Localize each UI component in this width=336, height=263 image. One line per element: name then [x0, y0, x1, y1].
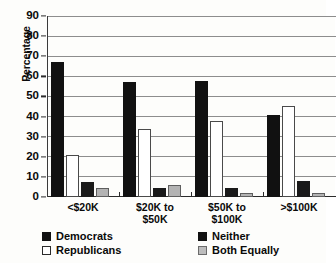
y-tick-label-70: 70 [26, 50, 39, 62]
bar-republicans [138, 129, 151, 197]
bar-both-equally [168, 185, 181, 197]
x-tick-label: >$100K [263, 202, 335, 214]
y-tick-mark-0 [41, 196, 46, 197]
bar-democrats [51, 62, 64, 197]
bar-both-equally [96, 188, 109, 197]
y-tick-label-80: 80 [26, 30, 39, 42]
y-tick-mark-60 [41, 76, 46, 77]
y-tick-label-50: 50 [26, 91, 39, 103]
bar-group [120, 16, 192, 197]
bars-layer [48, 16, 336, 197]
bar-democrats [195, 81, 208, 197]
y-tick-mark-30 [41, 136, 46, 137]
bar-neither [225, 188, 238, 197]
x-axis-labels: <$20K$20K to $50K$50K to $100K>$100K [47, 200, 335, 226]
y-tick-mark-20 [41, 156, 46, 157]
y-tick-label-60: 60 [26, 71, 39, 83]
legend-item-democrats: Democrats [42, 230, 113, 242]
x-tick-label: $50K to $100K [191, 202, 263, 225]
chart-legend: Democrats Republicans Neither Both Equal… [42, 230, 326, 258]
bar-neither [81, 182, 94, 197]
x-axis-separator [263, 192, 264, 197]
legend-label-democrats: Democrats [56, 230, 113, 242]
bar-neither [153, 188, 166, 197]
plot-area [47, 16, 335, 197]
y-tick-mark-70 [41, 56, 46, 57]
bar-group [48, 16, 120, 197]
legend-swatch-democrats-icon [42, 232, 51, 241]
x-tick-label: $20K to $50K [119, 202, 191, 225]
bar-both-equally [240, 193, 253, 197]
y-tick-label-90: 90 [26, 10, 39, 22]
y-axis-ticks: 0102030405060708090 [0, 16, 43, 197]
bar-republicans [282, 106, 295, 198]
legend-item-neither: Neither [198, 230, 250, 242]
legend-label-both-equally: Both Equally [212, 244, 279, 256]
legend-swatch-neither-icon [198, 232, 207, 241]
legend-label-neither: Neither [212, 230, 250, 242]
y-tick-mark-10 [41, 176, 46, 177]
x-axis-separator [119, 192, 120, 197]
legend-item-republicans: Republicans [42, 244, 121, 256]
bar-republicans [66, 155, 79, 197]
y-tick-mark-90 [41, 15, 46, 16]
y-tick-label-40: 40 [26, 111, 39, 123]
bar-both-equally [312, 193, 325, 197]
y-tick-mark-50 [41, 96, 46, 97]
y-tick-label-20: 20 [26, 151, 39, 163]
bar-group [192, 16, 264, 197]
bar-democrats [267, 115, 280, 197]
legend-label-republicans: Republicans [56, 244, 121, 256]
y-tick-label-10: 10 [26, 171, 39, 183]
y-tick-mark-40 [41, 116, 46, 117]
x-axis-separator [191, 192, 192, 197]
y-tick-label-0: 0 [33, 191, 39, 203]
bar-democrats [123, 82, 136, 197]
bar-republicans [210, 121, 223, 197]
legend-swatch-republicans-icon [42, 246, 51, 255]
legend-swatch-both-equally-icon [198, 246, 207, 255]
legend-item-both-equally: Both Equally [198, 244, 279, 256]
bar-group [264, 16, 336, 197]
y-tick-mark-80 [41, 36, 46, 37]
x-tick-label: <$20K [47, 202, 119, 214]
bar-neither [297, 181, 310, 197]
y-tick-label-30: 30 [26, 131, 39, 143]
